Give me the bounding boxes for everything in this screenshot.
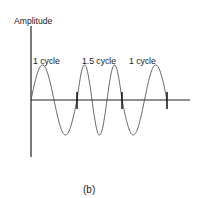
waveform-diagram (0, 0, 204, 198)
segment-label-3: 1 cycle (129, 57, 156, 66)
y-axis-label: Amplitude (14, 17, 52, 26)
segment-label-2: 1.5 cycle (82, 57, 116, 66)
segment-label-1: 1 cycle (33, 57, 60, 66)
figure-caption: (b) (83, 185, 95, 195)
